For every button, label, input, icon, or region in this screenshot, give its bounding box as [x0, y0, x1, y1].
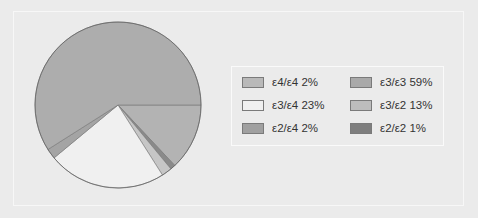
legend-item: ε2/ε2 1% — [350, 122, 426, 134]
legend-label: ε3/ε2 13% — [380, 99, 432, 111]
legend-label: ε3/ε4 23% — [272, 99, 324, 111]
legend-item: ε3/ε4 23% — [242, 99, 324, 111]
legend-item: ε2/ε4 2% — [242, 122, 318, 134]
legend-swatch — [242, 100, 264, 111]
legend-item: ε3/ε3 59% — [350, 76, 432, 88]
pie-chart — [0, 0, 240, 218]
legend-item: ε4/ε4 2% — [242, 76, 318, 88]
legend-label: ε2/ε4 2% — [272, 122, 318, 134]
legend-item: ε3/ε2 13% — [350, 99, 432, 111]
legend-swatch — [242, 123, 264, 134]
legend-swatch — [242, 77, 264, 88]
legend-swatch — [350, 77, 372, 88]
legend-label: ε3/ε3 59% — [380, 76, 432, 88]
legend-label: ε4/ε4 2% — [272, 76, 318, 88]
legend-label: ε2/ε2 1% — [380, 122, 426, 134]
legend: ε4/ε4 2% ε3/ε3 59% ε3/ε4 23% ε3/ε2 13% ε… — [231, 66, 444, 146]
legend-swatch — [350, 123, 372, 134]
legend-swatch — [350, 100, 372, 111]
